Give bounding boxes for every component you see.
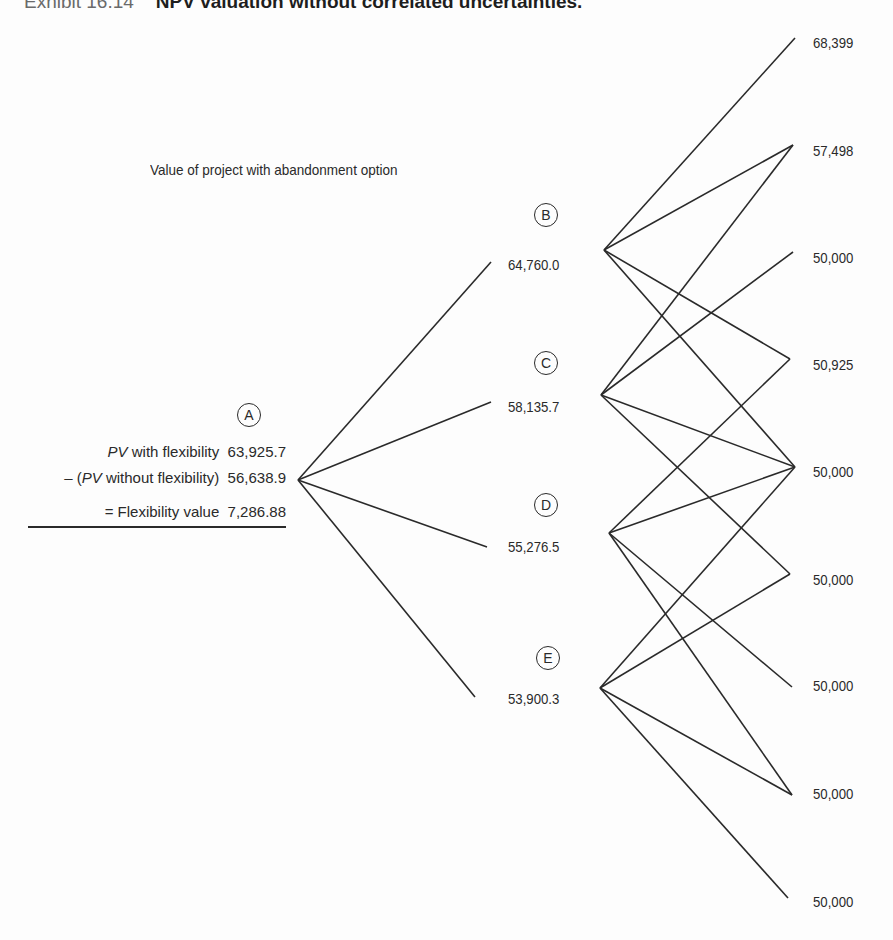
node-b-circle: B [534, 203, 558, 227]
edge-e-r5 [600, 467, 795, 688]
edge-a-e [298, 480, 475, 697]
edge-c-r6 [601, 395, 790, 574]
terminal-value-3: 50,000 [813, 249, 853, 266]
tree-caption: Value of project with abandonment option [150, 161, 397, 178]
terminal-value-6: 50,000 [813, 571, 853, 588]
edge-d-r5 [609, 467, 795, 533]
minus-prefix: – ( [64, 469, 82, 486]
edge-b-r1 [604, 38, 795, 250]
node-b-value: 64,760.0 [508, 256, 559, 273]
terminal-value-1: 68,399 [813, 34, 853, 51]
edge-c-r5 [601, 395, 795, 467]
node-e-circle: E [536, 646, 560, 670]
terminal-value-7: 50,000 [813, 677, 853, 694]
edge-d-r4 [609, 359, 790, 533]
terminal-value-9: 50,000 [813, 893, 853, 910]
edge-e-r9 [600, 688, 788, 898]
node-c-circle: C [534, 351, 558, 375]
pv-without-flexibility-label: without flexibility) [102, 469, 220, 486]
edge-c-r3 [601, 252, 793, 395]
node-a-circle: A [237, 403, 261, 427]
terminal-value-8: 50,000 [813, 785, 853, 802]
edge-c-r2 [601, 145, 793, 395]
pv-with-flexibility-value: 63,925.7 [228, 443, 286, 460]
node-d-value: 55,276.5 [508, 538, 559, 555]
edge-b-r4 [604, 250, 790, 359]
pv-with-flexibility-row: PV with flexibility 63,925.7 [108, 443, 286, 460]
edge-b-r2 [604, 145, 793, 250]
node-e-value: 53,900.3 [508, 690, 559, 707]
edge-e-r6 [600, 574, 790, 688]
node-d-circle: D [534, 493, 558, 517]
edge-b-r5 [604, 250, 795, 467]
terminal-value-5: 50,000 [813, 463, 853, 480]
subtraction-rule [28, 526, 286, 528]
edge-e-r8 [600, 688, 792, 795]
flexibility-value: 7,286.88 [228, 503, 286, 520]
pv-with-flexibility-label: with flexibility [128, 443, 220, 460]
flexibility-value-label: = Flexibility value [105, 503, 220, 520]
terminal-value-4: 50,925 [813, 356, 853, 373]
edge-a-c [298, 402, 491, 480]
pv-without-flexibility-row: – (PV without flexibility) 56,638.9 [64, 469, 286, 486]
node-c-value: 58,135.7 [508, 398, 559, 415]
flexibility-value-row: = Flexibility value 7,286.88 [105, 503, 286, 520]
edge-a-b [298, 262, 491, 480]
pv-italic: PV [108, 443, 128, 460]
pv-italic: PV [82, 469, 102, 486]
terminal-value-2: 57,498 [813, 142, 853, 159]
pv-without-flexibility-value: 56,638.9 [228, 469, 286, 486]
